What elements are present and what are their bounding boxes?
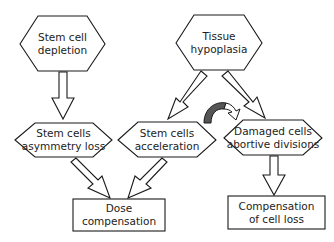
arrow-depletion-to-asymmetry bbox=[52, 72, 74, 119]
label-dose-compensation: Dose compensation bbox=[73, 199, 165, 231]
arrow-acceleration-to-dose bbox=[128, 158, 167, 198]
label-stem-cells-acceleration: Stem cells acceleration bbox=[118, 122, 216, 157]
label-compensation-of-cell-loss: Compensation of cell loss bbox=[228, 196, 325, 229]
label-tissue-hypoplasia: Tissue hypoplasia bbox=[176, 15, 262, 70]
arrow-hypoplasia-to-acceleration bbox=[168, 71, 207, 119]
arrow-damaged-to-cellloss bbox=[263, 156, 285, 195]
label-damaged-cells-abortive-divisions: Damaged cells abortive divisions bbox=[224, 120, 322, 155]
label-stem-cells-asymmetry-loss: Stem cells asymmetry loss bbox=[15, 123, 112, 157]
arrow-hypoplasia-to-damaged bbox=[222, 71, 265, 118]
label-stem-cell-depletion: Stem cell depletion bbox=[20, 16, 105, 71]
flow-diagram: Stem cell depletion Tissue hypoplasia St… bbox=[0, 0, 334, 242]
arrow-asymmetry-to-dose bbox=[71, 158, 110, 198]
